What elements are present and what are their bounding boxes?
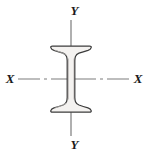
axis-label-y-top: Y — [0, 4, 149, 17]
ibeam-drawing — [0, 0, 149, 157]
axis-label-x-right: X — [131, 72, 145, 85]
ibeam-axes-figure: Y Y X X — [0, 0, 149, 157]
axis-label-x-left: X — [3, 72, 17, 85]
axis-label-y-bottom: Y — [0, 138, 149, 151]
